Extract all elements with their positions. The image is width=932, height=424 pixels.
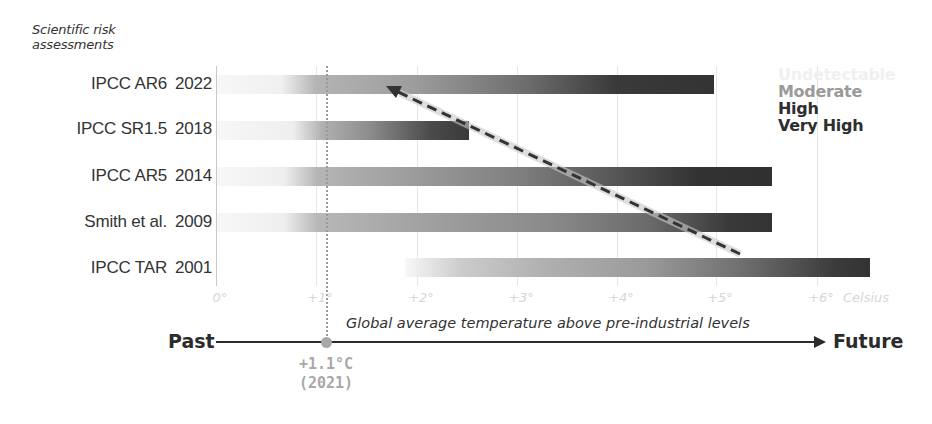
marker-value: +1.1°C xyxy=(299,355,353,374)
timeline-arrow-icon xyxy=(814,336,826,348)
tick-6: +6° xyxy=(808,290,834,305)
tick-5: +5° xyxy=(707,290,733,305)
legend-undetectable: Undetectable xyxy=(778,66,895,83)
legend-high: High xyxy=(778,100,895,117)
x-axis-title: Global average temperature above pre-ind… xyxy=(346,315,750,331)
future-label: Future xyxy=(833,330,903,352)
current-marker-dot xyxy=(321,337,332,348)
tick-0: 0° xyxy=(213,290,228,305)
tick-1: +1° xyxy=(307,290,333,305)
axis-unit: Celsius xyxy=(843,290,889,305)
past-label: Past xyxy=(168,330,215,352)
timeline-axis xyxy=(216,341,818,343)
legend: Undetectable Moderate High Very High xyxy=(778,66,895,134)
legend-moderate: Moderate xyxy=(778,83,895,100)
tick-4: +4° xyxy=(608,290,634,305)
tick-2: +2° xyxy=(408,290,434,305)
marker-year: (2021) xyxy=(299,374,353,393)
legend-very-high: Very High xyxy=(778,117,895,134)
risk-chart: Scientific risk assessments IPCC AR62022… xyxy=(0,0,932,424)
current-marker-label: +1.1°C (2021) xyxy=(299,355,353,393)
tick-3: +3° xyxy=(508,290,534,305)
trend-arrow-icon xyxy=(0,0,932,424)
